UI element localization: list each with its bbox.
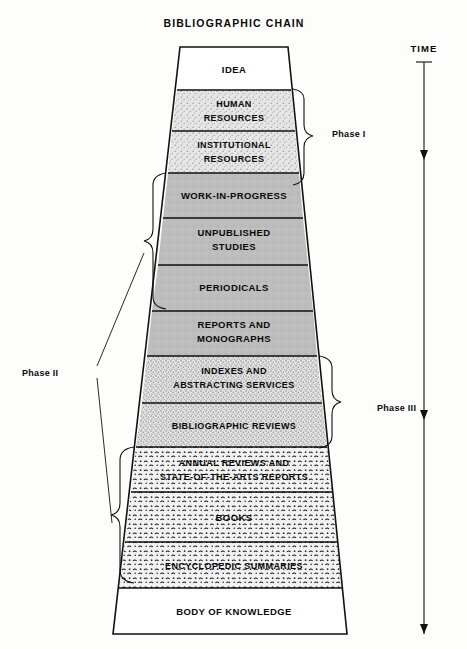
band-label-body-of-knowledge: BODY OF KNOWLEDGE (176, 606, 291, 617)
band-label-work-in-progress: WORK-IN-PROGRESS (181, 190, 287, 201)
band-label-institutional-resources-line1: INSTITUTIONAL (197, 140, 271, 150)
phase-2-leader-up (97, 253, 144, 366)
band-label-encyclopedic-summaries: ENCYCLOPEDIC SUMMARIES (165, 561, 303, 571)
band-label-annual-reviews-line2: STATE-OF-THE-ARTS REPORTS (160, 472, 308, 482)
time-arrowhead-middle (420, 410, 428, 420)
phase-2-label: Phase II (22, 368, 58, 378)
band-label-human-resources-line1: HUMAN (216, 99, 252, 109)
phase-2-leader-down (97, 378, 112, 523)
chain-figure: BIBLIOGRAPHIC CHAIN TIME IDEA HUMAN RESO… (0, 0, 467, 649)
bibliographic-chain-diagram: BIBLIOGRAPHIC CHAIN TIME IDEA HUMAN RESO… (0, 0, 467, 649)
time-arrowhead-upper (420, 150, 428, 160)
phase-1-label: Phase I (332, 129, 366, 139)
band-label-indexes-abstracting-line1: INDEXES AND (201, 366, 267, 376)
band-annual-reviews-fill (131, 447, 332, 492)
band-institutional-resources-fill (168, 131, 299, 173)
band-label-human-resources-line2: RESOURCES (204, 113, 265, 123)
band-label-unpublished-studies-line1: UNPUBLISHED (197, 227, 270, 238)
band-label-reports-monographs-line2: MONOGRAPHS (197, 333, 271, 344)
band-label-periodicals: PERIODICALS (199, 282, 268, 293)
time-arrowhead-bottom (420, 624, 428, 634)
band-label-books: BOOKS (216, 512, 253, 523)
band-human-resources-fill (172, 90, 295, 131)
band-label-institutional-resources-line2: RESOURCES (204, 154, 265, 164)
time-axis-label: TIME (410, 43, 437, 54)
page-title: BIBLIOGRAPHIC CHAIN (163, 17, 304, 29)
band-label-idea: IDEA (222, 64, 246, 75)
band-label-annual-reviews-line1: ANNUAL REVIEWS AND (179, 458, 290, 468)
band-label-indexes-abstracting-line2: ABSTRACTING SERVICES (173, 380, 294, 390)
band-label-unpublished-studies-line2: STUDIES (212, 241, 256, 252)
phase-3-label: Phase III (377, 403, 416, 413)
band-label-bibliographic-reviews: BIBLIOGRAPHIC REVIEWS (172, 421, 296, 431)
band-label-reports-monographs-line1: REPORTS AND (197, 319, 270, 330)
